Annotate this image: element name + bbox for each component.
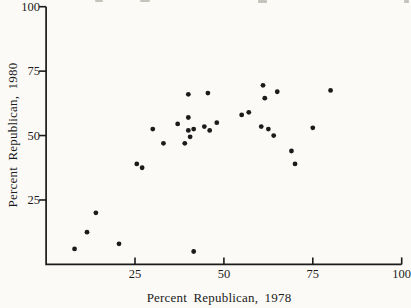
data-point xyxy=(214,120,219,125)
data-point xyxy=(207,128,212,133)
scan-artifact xyxy=(140,0,150,2)
scan-artifact xyxy=(258,0,267,3)
scan-artifact xyxy=(95,0,103,2)
data-point xyxy=(266,127,271,132)
data-point xyxy=(175,122,180,127)
axes xyxy=(46,7,402,265)
data-point xyxy=(293,161,298,166)
y-tick-label: 100 xyxy=(21,0,40,14)
y-axis-label: Percent Republican, 1980 xyxy=(5,62,21,208)
data-point xyxy=(328,88,333,93)
data-point xyxy=(246,110,251,115)
data-point xyxy=(202,124,207,129)
data-point xyxy=(186,92,191,97)
data-point xyxy=(182,141,187,146)
data-point xyxy=(310,125,315,130)
data-point xyxy=(140,165,145,170)
data-point xyxy=(150,127,155,132)
x-tick-label: 25 xyxy=(129,267,142,281)
data-point xyxy=(191,249,196,254)
data-point xyxy=(239,113,244,118)
data-point xyxy=(134,161,139,166)
x-tick-label: 100 xyxy=(392,267,411,281)
y-tick-label: 75 xyxy=(28,64,41,78)
scatter-plot-figure: 255075100255075100 Percent Republican, 1… xyxy=(0,0,411,308)
data-point xyxy=(205,91,210,96)
data-point xyxy=(186,115,191,120)
data-point xyxy=(275,89,280,94)
scan-artifact xyxy=(404,0,409,3)
data-point xyxy=(117,241,122,246)
x-axis-label: Percent Republican, 1978 xyxy=(109,290,329,306)
data-point xyxy=(93,210,98,215)
data-point xyxy=(72,247,77,252)
y-tick-label: 25 xyxy=(28,193,41,207)
data-point xyxy=(191,127,196,132)
data-point xyxy=(271,133,276,138)
data-point xyxy=(85,230,90,235)
x-tick-label: 50 xyxy=(218,267,231,281)
data-point xyxy=(186,128,191,133)
data-point xyxy=(259,124,264,129)
y-tick-label: 50 xyxy=(28,129,41,143)
data-point xyxy=(188,134,193,139)
x-tick-label: 75 xyxy=(307,267,320,281)
data-point xyxy=(161,141,166,146)
data-point xyxy=(289,149,294,154)
plot-canvas: 255075100255075100 xyxy=(0,0,411,308)
data-point xyxy=(262,96,267,101)
data-point xyxy=(261,83,266,88)
